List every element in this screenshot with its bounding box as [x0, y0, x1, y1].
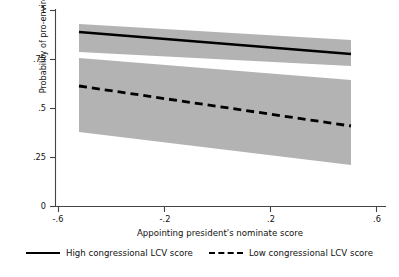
y-axis-ticks [50, 11, 55, 207]
chart-figure: Probability of pro-environmental decisio… [0, 0, 399, 277]
legend-solid-line-icon [26, 252, 60, 254]
x-axis-title: Appointing president's nominate score [55, 228, 385, 238]
legend-dashed-line-icon [209, 252, 243, 254]
y-axis-title-wrap: Probability of pro-environmental decisio… [0, 2, 20, 207]
y-tick-label-05: .5 [18, 103, 46, 113]
chart-legend: High congressional LCV score Low congres… [0, 248, 399, 258]
legend-item-high-lcv: High congressional LCV score [26, 248, 193, 258]
y-tick-label-075: .75 [18, 54, 46, 64]
y-tick-label-025: .25 [18, 152, 46, 162]
x-tick-label-02: .2 [251, 214, 291, 224]
x-tick-label-neg02: -.2 [145, 214, 185, 224]
x-tick-label-neg06: -.6 [38, 214, 78, 224]
y-tick-label-1: 1 [18, 5, 46, 15]
legend-label-low-lcv: Low congressional LCV score [249, 248, 373, 258]
legend-item-low-lcv: Low congressional LCV score [209, 248, 373, 258]
legend-label-high-lcv: High congressional LCV score [66, 248, 193, 258]
ci-band-low-lcv [79, 58, 351, 165]
y-tick-label-0: 0 [18, 201, 46, 211]
x-tick-label-06: .6 [357, 214, 397, 224]
ci-band-high-lcv [79, 24, 351, 66]
